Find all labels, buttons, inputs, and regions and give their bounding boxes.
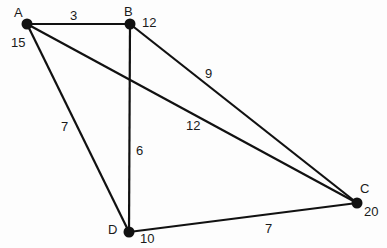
graph-diagram: A 15 B 12 C 20 D 10 3 9 12 7 6 7 — [0, 0, 387, 248]
edge-a-d-weight: 7 — [61, 120, 68, 133]
node-a-label: A — [14, 6, 23, 19]
edge-b-c-weight: 9 — [205, 67, 212, 80]
edge-b-d — [129, 24, 130, 232]
edge-a-c-weight: 12 — [186, 119, 200, 132]
edge-a-b-weight: 3 — [70, 9, 77, 22]
edge-d-c-weight: 7 — [265, 222, 272, 235]
edge-a-c — [27, 24, 357, 203]
node-d-weight: 10 — [140, 232, 154, 245]
node-b — [125, 19, 136, 30]
node-d-label: D — [108, 223, 117, 236]
node-a — [22, 19, 33, 30]
node-c — [352, 198, 363, 209]
node-b-label: B — [124, 5, 133, 18]
edge-d-c — [129, 203, 357, 232]
node-a-weight: 15 — [11, 36, 25, 49]
edge-a-d — [27, 24, 129, 232]
node-c-label: C — [360, 182, 369, 195]
node-d — [124, 227, 135, 238]
node-c-weight: 20 — [364, 205, 378, 218]
edge-b-c — [130, 24, 357, 203]
node-b-weight: 12 — [142, 16, 156, 29]
edge-b-d-weight: 6 — [136, 144, 143, 157]
